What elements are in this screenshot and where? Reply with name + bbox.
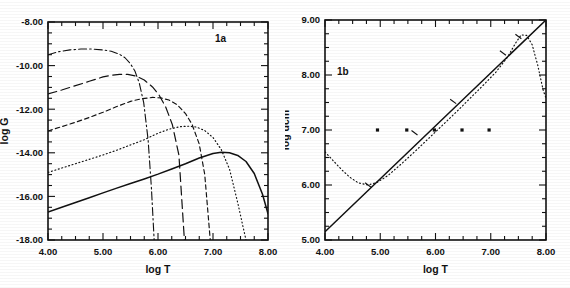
panel-label: 1b <box>337 66 349 77</box>
panel-1a-series-group <box>48 49 268 240</box>
y-tick-label: 7.00 <box>302 124 321 135</box>
data-point-marker <box>376 128 379 131</box>
y-tick-label: -10.00 <box>16 60 43 71</box>
y-tick-label: 8.00 <box>302 69 321 80</box>
panel-1a-canvas: 4.005.006.007.008.00-18.00-16.00-14.00-1… <box>0 0 285 288</box>
x-tick-label: 7.00 <box>482 246 501 257</box>
x-axis-title: log T <box>145 263 171 275</box>
x-tick-label: 7.00 <box>204 246 223 257</box>
panel-1a-plot-group: 4.005.006.007.008.00-18.00-16.00-14.00-1… <box>0 16 277 275</box>
panel-label: 1a <box>215 33 227 44</box>
cross-tick <box>412 131 418 135</box>
curve-dashed-long <box>48 74 184 240</box>
x-tick-label: 4.00 <box>316 246 335 257</box>
curve-dashed-short <box>48 97 210 240</box>
x-tick-label: 6.00 <box>426 246 445 257</box>
cross-tick <box>365 183 371 187</box>
line-solid-diagonal <box>325 20 546 232</box>
y-tick-label: -18.00 <box>16 234 43 245</box>
dot-markers <box>376 128 491 131</box>
y-axis-title: log G <box>0 118 10 145</box>
panel-1b-series-group <box>325 20 546 232</box>
data-point-marker <box>433 128 436 131</box>
panel-1b-plot-group: 4.005.006.007.008.005.006.007.008.009.00… <box>285 14 555 275</box>
curve-solid <box>48 152 268 213</box>
y-tick-label: -12.00 <box>16 104 43 115</box>
x-tick-label: 8.00 <box>537 246 556 257</box>
cross-tick-markers <box>365 34 521 187</box>
panel-1a-plot-frame <box>48 22 268 240</box>
x-tick-label: 6.00 <box>149 246 168 257</box>
figure-container: 4.005.006.007.008.00-18.00-16.00-14.00-1… <box>0 0 570 288</box>
x-tick-label: 4.00 <box>39 246 58 257</box>
y-tick-label: -8.00 <box>21 16 43 27</box>
x-tick-label: 5.00 <box>371 246 390 257</box>
x-tick-label: 5.00 <box>94 246 113 257</box>
y-tick-label: -14.00 <box>16 147 43 158</box>
y-tick-label: 9.00 <box>302 14 321 25</box>
y-tick-label: 6.00 <box>302 179 321 190</box>
curve-dotted <box>325 35 546 185</box>
panel-1a-ticks <box>48 22 268 240</box>
panel-1a: 4.005.006.007.008.00-18.00-16.00-14.00-1… <box>0 0 285 288</box>
data-point-marker <box>460 128 463 131</box>
panel-1b: 4.005.006.007.008.005.006.007.008.009.00… <box>285 0 570 288</box>
data-point-marker <box>487 128 490 131</box>
y-axis-title: log dcm <box>285 110 291 150</box>
panel-1b-canvas: 4.005.006.007.008.005.006.007.008.009.00… <box>285 0 570 288</box>
data-point-marker <box>405 128 408 131</box>
x-axis-title: log T <box>423 263 449 275</box>
y-tick-label: 5.00 <box>302 234 321 245</box>
cross-tick <box>500 51 506 55</box>
cross-tick <box>450 99 456 103</box>
x-tick-label: 8.00 <box>259 246 278 257</box>
curve-dotted <box>48 126 246 240</box>
y-tick-label: -16.00 <box>16 191 43 202</box>
